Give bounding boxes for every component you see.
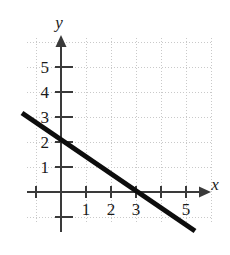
y-axis-arrowhead (56, 35, 67, 47)
y-tick-label-1: 1 (41, 158, 50, 177)
y-tick-label-2: 2 (41, 133, 50, 152)
coordinate-plane: 5 4 3 2 1 1 2 3 5 x y (0, 0, 230, 255)
x-tick-label-2: 2 (107, 200, 116, 219)
x-tick-label-1: 1 (82, 200, 91, 219)
x-axis-arrowhead (199, 187, 211, 198)
y-tick-label-3: 3 (41, 108, 50, 127)
x-tick-label-3: 3 (132, 200, 141, 219)
y-axis-label: y (53, 13, 63, 32)
y-tick-label-5: 5 (41, 58, 50, 77)
vertical-gridlines (36, 38, 211, 222)
x-axis-label: x (210, 175, 219, 194)
y-axis (56, 35, 67, 232)
x-axis (27, 187, 211, 198)
x-tick-label-5: 5 (182, 200, 191, 219)
y-tick-label-4: 4 (41, 83, 50, 102)
graph-figure: 5 4 3 2 1 1 2 3 5 x y (0, 0, 230, 255)
